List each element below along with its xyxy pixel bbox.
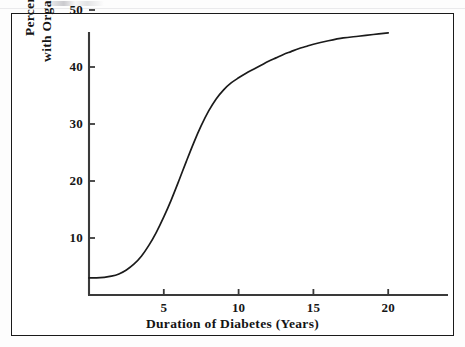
y-axis-title-line-1: Percent of Patients [21, 0, 38, 94]
x-tick-label: 5 [160, 300, 167, 316]
y-axis-title-line-2: with Orgasmic Dysfunction [38, 0, 55, 94]
y-tick-label: 40 [70, 59, 83, 75]
x-tick-label: 20 [381, 300, 394, 316]
x-tick-label: 15 [307, 300, 320, 316]
data-series-line [89, 33, 388, 278]
figure-container: 1020304050 5101520 Duration of Diabetes … [0, 0, 465, 347]
x-tick-label: 10 [232, 300, 245, 316]
y-tick-label: 20 [70, 173, 83, 189]
y-tick-label: 50 [70, 2, 83, 18]
y-axis-title: Percent of Patients with Orgasmic Dysfun… [21, 0, 55, 94]
y-tick-label: 10 [70, 230, 83, 246]
x-axis-title: Duration of Diabetes (Years) [0, 316, 465, 332]
y-tick-label: 30 [70, 116, 83, 132]
